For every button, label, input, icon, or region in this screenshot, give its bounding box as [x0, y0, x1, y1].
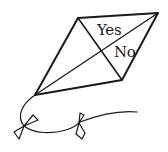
label-no: No: [114, 45, 136, 60]
kite-tail: [20, 95, 137, 133]
label-yes: Yes: [97, 23, 121, 38]
tail-bow-2: [76, 113, 85, 139]
kite-drawing: [0, 0, 168, 152]
